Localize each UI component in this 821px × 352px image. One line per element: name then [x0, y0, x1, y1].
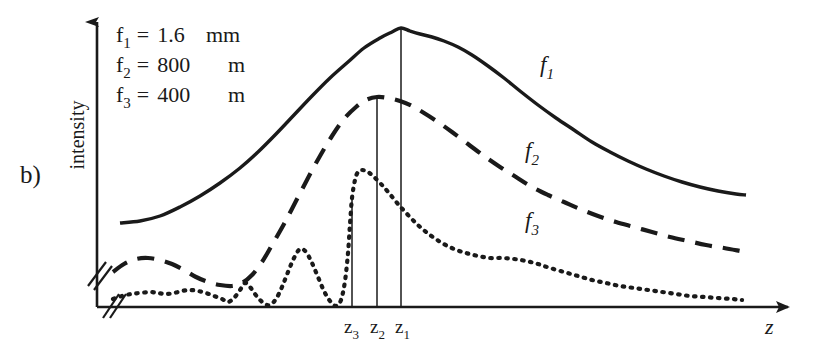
legend-unit: mm — [206, 22, 240, 47]
y-axis-title: intensity — [66, 101, 89, 170]
legend-unit: m — [228, 82, 245, 107]
legend-value: 1.6 — [157, 22, 185, 47]
legend-unit: m — [228, 52, 245, 77]
legend-value: 400 — [157, 82, 190, 107]
legend-subscript: 2 — [123, 65, 131, 81]
panel-label: b) — [20, 161, 41, 189]
legend-subscript: 1 — [123, 35, 131, 51]
legend-value: 800 — [157, 52, 190, 77]
intensity-vs-z-figure: intensity z b) f1=1.6mmf2=800mf3=400m f1… — [0, 0, 821, 352]
x-axis-title: z — [764, 314, 774, 339]
legend-subscript: 3 — [123, 95, 131, 111]
